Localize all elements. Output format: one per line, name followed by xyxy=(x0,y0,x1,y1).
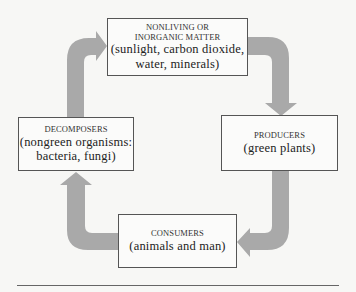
node-producers: PRODUCERS (green plants) xyxy=(221,115,338,171)
node-detail: (sunlight, carbon dioxide, xyxy=(111,42,245,56)
node-detail: (nongreen organisms: xyxy=(20,135,132,149)
arrow-nonliving-to-producers xyxy=(247,37,297,116)
arrow-consumers-to-decomposers xyxy=(60,172,118,250)
node-consumers: CONSUMERS (animals and man) xyxy=(118,214,237,268)
node-detail: (animals and man) xyxy=(129,239,225,253)
node-detail: bacteria, fungi) xyxy=(36,149,116,163)
node-decomposers: DECOMPOSERS (nongreen organisms: bacteri… xyxy=(18,117,134,171)
node-caption: DECOMPOSERS xyxy=(45,125,108,135)
node-caption: INORGANIC MATTER xyxy=(135,33,220,43)
node-nonliving-matter: NONLIVING OR INORGANIC MATTER (sunlight,… xyxy=(107,18,248,76)
arrow-producers-to-consumers xyxy=(237,171,289,257)
node-caption: CONSUMERS xyxy=(151,229,204,239)
node-detail: water, minerals) xyxy=(136,57,220,71)
node-caption: PRODUCERS xyxy=(254,131,305,141)
bottom-divider xyxy=(17,285,339,286)
arrow-decomposers-to-nonliving xyxy=(67,31,107,117)
node-detail: (green plants) xyxy=(244,141,316,155)
